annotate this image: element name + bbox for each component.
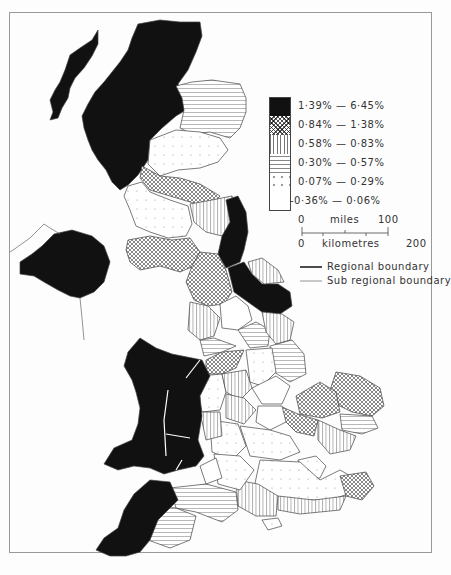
legend: 1·39% — 6·45% 0·84% — 1·38% 0·58% — 0·83…	[270, 97, 430, 211]
swatch-blank	[269, 192, 291, 211]
region-suffolk	[340, 414, 378, 434]
region-dumfries	[126, 236, 200, 272]
region-oxon-bucks	[240, 426, 300, 460]
legend-item: 0·84% — 1·38%	[270, 116, 430, 135]
region-northern-ireland	[20, 230, 110, 298]
region-grampian	[176, 80, 246, 138]
region-wales	[104, 338, 210, 474]
regional-boundary-label: Regional boundary	[327, 261, 429, 272]
region-west-midlands	[226, 394, 256, 424]
scale-labels: 0 miles 100 0 kilometres 200	[300, 210, 430, 250]
legend-item: 0·07% — 0·29%	[270, 173, 430, 192]
swatch-horizontal	[269, 154, 291, 173]
legend-item: 0·30% — 0·57%	[270, 154, 430, 173]
swatch-dots	[269, 173, 291, 192]
region-iow	[262, 518, 282, 530]
legend-item: -0·36% — 0·06%	[270, 192, 430, 211]
region-tayside	[148, 130, 228, 176]
swatch-vertical	[269, 135, 291, 154]
legend-item: 0·58% — 0·83%	[270, 135, 430, 154]
region-northants	[256, 406, 286, 430]
region-lancs	[188, 302, 220, 340]
region-herefs	[200, 412, 222, 440]
region-lincs	[270, 340, 306, 382]
legend-item: 1·39% — 6·45%	[270, 97, 430, 116]
sub-regional-boundary-label: Sub regional boundary	[327, 275, 451, 286]
swatch-solid	[269, 97, 291, 116]
swatch-crosshatch	[269, 116, 291, 135]
